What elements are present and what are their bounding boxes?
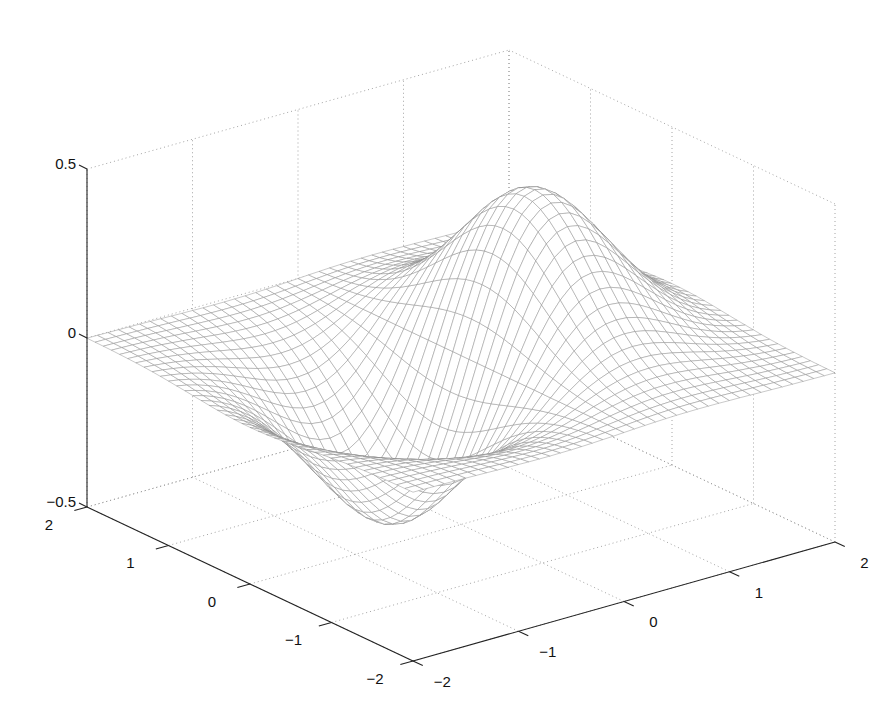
- z-tick: [79, 165, 87, 169]
- y-tick-label: 1: [126, 554, 134, 571]
- y-tick-label: −1: [285, 631, 302, 648]
- surface-plot: −2−1012−2−1012−0.500.5: [0, 0, 896, 722]
- y-tick: [237, 584, 250, 588]
- y-tick: [156, 546, 169, 550]
- y-tick: [319, 623, 332, 627]
- x-tick-label: 1: [755, 584, 763, 601]
- x-tick: [519, 631, 529, 636]
- z-tick: [79, 334, 87, 338]
- y-tick: [74, 507, 87, 511]
- x-tick: [835, 542, 845, 547]
- x-tick: [624, 602, 634, 607]
- x-tick-label: 2: [860, 554, 868, 571]
- x-tick-label: 0: [649, 613, 657, 630]
- x-tick: [730, 572, 740, 577]
- y-tick-label: 2: [45, 516, 53, 533]
- x-tick-label: −2: [434, 673, 451, 690]
- z-tick-label: 0.5: [55, 155, 76, 172]
- surface-mesh: [87, 187, 835, 525]
- x-tick-label: −1: [539, 643, 556, 660]
- z-tick-label: −0.5: [46, 493, 76, 510]
- y-tick: [400, 661, 413, 665]
- y-tick-label: −2: [366, 670, 383, 687]
- x-tick: [413, 661, 423, 666]
- z-tick-label: 0: [68, 324, 76, 341]
- y-tick-label: 0: [208, 593, 216, 610]
- z-tick: [79, 503, 87, 507]
